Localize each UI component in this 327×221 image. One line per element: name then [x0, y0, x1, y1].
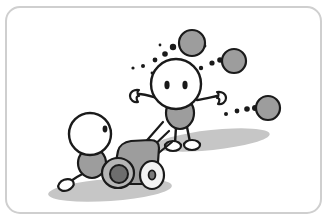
crouching-head	[69, 113, 111, 155]
trail-dot	[131, 66, 134, 69]
trail-dot	[244, 106, 250, 112]
trail-dot	[170, 44, 176, 50]
standing-right-eye	[182, 81, 187, 89]
illustration-canvas	[0, 0, 327, 221]
cannonball-2	[222, 49, 246, 73]
trail-dot	[153, 58, 158, 63]
trail-dot	[141, 64, 145, 68]
standing-right-foot	[184, 140, 200, 150]
trail-dot	[209, 60, 214, 65]
trail-dot	[159, 44, 162, 47]
trail-dot	[224, 112, 228, 116]
cannonball-3	[256, 96, 280, 120]
trail-dot	[162, 51, 168, 57]
standing-right-hand-icon	[217, 92, 226, 104]
crouching-eye	[103, 126, 108, 133]
cannonball-1	[179, 30, 205, 56]
standing-left-hand-icon	[130, 90, 139, 102]
cannon-bore	[110, 165, 128, 183]
trail-dot	[235, 109, 240, 114]
trail-dot	[199, 66, 203, 70]
standing-head	[151, 59, 201, 109]
cannon-wheel-hub	[149, 170, 156, 179]
standing-left-eye	[164, 81, 169, 89]
cartoon-illustration	[0, 0, 327, 221]
